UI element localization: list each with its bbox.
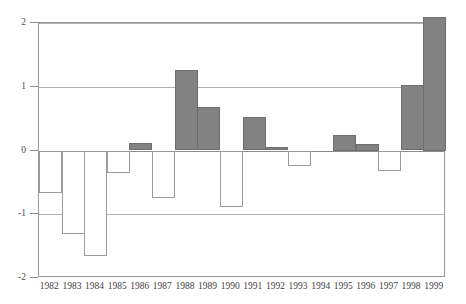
y-tick-2	[30, 22, 38, 23]
x-tick-label-1991: 1991	[242, 280, 265, 292]
plot-area	[38, 22, 445, 277]
y-tick-label-1: 1	[4, 81, 26, 91]
y-tick-label-0: 0	[4, 145, 26, 155]
x-tick-label-1987: 1987	[151, 280, 174, 292]
bar-1996	[356, 144, 379, 150]
x-tick-label-1983: 1983	[61, 280, 84, 292]
bar-1997	[378, 151, 401, 171]
y-tick-label--2: -2	[4, 272, 26, 282]
gridline-2	[39, 23, 444, 24]
x-tick-label-1999: 1999	[422, 280, 445, 292]
x-tick-label-1993: 1993	[287, 280, 310, 292]
bar-1998	[401, 85, 424, 150]
x-tick-label-1982: 1982	[38, 280, 61, 292]
y-tick-1	[30, 86, 38, 87]
bar-1991	[243, 117, 266, 150]
y-axis-line	[38, 22, 39, 277]
bar-1999	[423, 17, 446, 151]
bar-1993	[288, 151, 311, 167]
x-tick-label-1994: 1994	[309, 280, 332, 292]
x-tick-label-1995: 1995	[332, 280, 355, 292]
y-tick--1	[30, 213, 38, 214]
x-axis-labels: 1982198319841985198619871988198919901991…	[38, 280, 445, 300]
x-tick-label-1998: 1998	[400, 280, 423, 292]
bar-1985	[107, 151, 130, 173]
x-tick-label-1997: 1997	[377, 280, 400, 292]
bar-1990	[220, 151, 243, 208]
bar-1984	[84, 151, 107, 257]
bar-1989	[197, 107, 220, 150]
x-tick-label-1986: 1986	[128, 280, 151, 292]
bar-1983	[62, 151, 85, 235]
x-tick-label-1996: 1996	[355, 280, 378, 292]
bar-1988	[175, 70, 198, 150]
bar-1986	[129, 143, 152, 151]
x-tick-label-1988: 1988	[174, 280, 197, 292]
bar-chart: 210-1-2 19821983198419851986198719881989…	[0, 0, 466, 304]
bar-1995	[333, 135, 356, 151]
x-tick-label-1985: 1985	[106, 280, 129, 292]
bar-1982	[39, 151, 62, 193]
x-tick-label-1990: 1990	[219, 280, 242, 292]
x-tick-label-1984: 1984	[83, 280, 106, 292]
y-tick-label--1: -1	[4, 208, 26, 218]
y-tick--2	[30, 277, 38, 278]
x-tick-label-1992: 1992	[264, 280, 287, 292]
x-tick-label-1989: 1989	[196, 280, 219, 292]
bar-1987	[152, 151, 175, 198]
gridline-1	[39, 87, 444, 88]
bar-1992	[265, 147, 288, 151]
y-tick-label-2: 2	[4, 17, 26, 27]
y-tick-0	[30, 150, 38, 151]
